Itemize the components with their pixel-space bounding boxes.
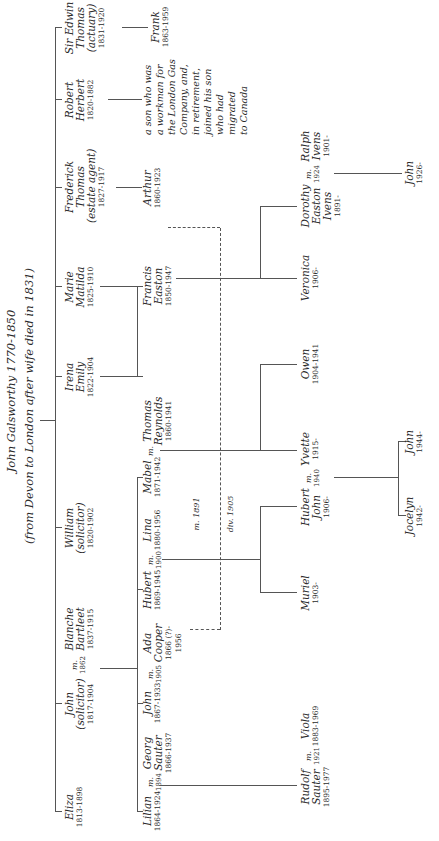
person-john4: John1926- [404, 153, 425, 193]
divorce-arthur-ada: div. 1905 [226, 489, 235, 539]
person-hubertjohn: HubertJohn1906- [300, 485, 332, 529]
person-rudolf: RudolfSauter1895-1977 [300, 763, 332, 811]
tick-frederick [55, 187, 62, 188]
stem-hubert-lina [162, 559, 260, 560]
tick-robert [55, 99, 62, 100]
gen4-hubert-bar [260, 507, 261, 593]
stem-edwin [122, 27, 148, 28]
person-arthur: Arthur1860-1923 [142, 161, 163, 215]
person-robert: RobertHerbert1820-1882 [64, 73, 96, 127]
tick-william [55, 527, 62, 528]
person-john2: John1867-1933 [142, 681, 163, 725]
person-hubert: Hubert1869-1945 [142, 567, 163, 613]
gen4-easton-bar [260, 207, 261, 279]
person-william: William(solicitor)1820-1902 [64, 497, 96, 559]
person-owen: Owen1904-1941 [300, 341, 321, 387]
tick-dorothy [260, 206, 297, 207]
stem-hubertjohn-yvette [334, 477, 398, 478]
tick-john [55, 703, 62, 704]
person-john: John(solicitor)1817-1904 [64, 675, 96, 733]
person-edwin: Sir EdwinThomas(actuary)1831-1920 [64, 1, 107, 55]
tick-irena [55, 376, 62, 377]
tick-thomas [137, 376, 143, 377]
tick-owen-left [260, 450, 297, 451]
person-dorothy: DorothyEastonIvens1891- [300, 181, 343, 231]
stem-marie [100, 286, 137, 287]
stem-frederick [116, 187, 142, 188]
dashed-arthur-down [168, 227, 220, 228]
stem-robert [108, 99, 142, 100]
title-line-2: (from Devon to London after wife died in… [22, 241, 36, 571]
person-frederick: FrederickThomas(estate agent)1827-1917 [64, 151, 107, 223]
person-john3: John1944- [404, 422, 425, 462]
person-jocelyn: Jocelyn1942- [404, 494, 425, 538]
person-lina: Lina1880-1956 [142, 507, 163, 553]
tick-marie [55, 286, 62, 287]
person-muriel: Muriel1903- [300, 571, 321, 615]
marriage-arthur-ada: m. 1891 [192, 489, 201, 539]
person-irena: IrenaEmily1822-1904 [64, 353, 96, 401]
gen2-sibling-bar [55, 28, 56, 812]
person-viola: Viola1883-1969 [300, 703, 321, 749]
tick-muriel [260, 592, 297, 593]
stem-dorothy-ralph [334, 173, 402, 174]
tick-edwin [55, 27, 62, 28]
person-mabel: Mabel1871-1942 [142, 455, 163, 499]
marriage-john-ada: m.1905 [146, 663, 164, 685]
person-frank: Frank1863-1959 [150, 3, 171, 51]
dashed-ada-down [190, 629, 220, 630]
title-line-1: John Galsworthy 1770-1850 [4, 261, 18, 521]
person-georg: GeorgSauter1866-1937 [142, 731, 174, 775]
gen5-galsworthy-bar [398, 442, 399, 516]
person-ada: AdaCooper1866 (?)-1956 [142, 621, 184, 665]
person-yvette: OwenYvette1915- [300, 427, 321, 471]
person-ralph: RalphIvens1901- [300, 125, 332, 167]
stem-francis [176, 278, 260, 279]
person-francis: FrancisEaston1850-1947 [142, 261, 174, 311]
person-veronica: Veronica1906- [300, 251, 321, 305]
person-blanche: BlancheBartleet1837-1915 [64, 601, 96, 657]
title-stem [40, 420, 55, 421]
gen4-reynolds-bar [260, 365, 261, 451]
person-thomas: ThomasReynolds1860-1941 [142, 393, 174, 449]
person-marie: MarieMatilda1825-1910 [64, 263, 96, 311]
gen3-easton-bar [137, 287, 138, 377]
family-tree: John Galsworthy 1770-1850 (from Devon to… [0, 0, 439, 841]
person-lilian: Lilian1864-1924 [142, 789, 163, 833]
tick-hubertjohn [260, 506, 297, 507]
tick-eliza [55, 811, 62, 812]
stem-lilian-georg [160, 785, 297, 786]
stem-irena [100, 376, 137, 377]
person-eliza: Eliza1813-1898 [64, 785, 85, 829]
dashed-arthur-ada [220, 228, 221, 630]
tick-owen [260, 364, 297, 365]
tick-veronica [260, 278, 297, 279]
stem-john-blanche [100, 668, 137, 669]
stem-mabel-thomas [160, 450, 260, 451]
gen3-galsworthy-bar [137, 478, 138, 812]
note-robert-son: a son who wasa workman forthe London Gas… [142, 55, 250, 135]
